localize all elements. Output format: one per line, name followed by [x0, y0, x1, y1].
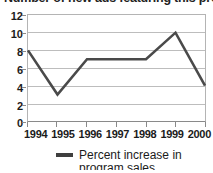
x-tick-label: 1999	[158, 128, 185, 142]
x-tick-mark	[205, 122, 206, 127]
x-tick-mark	[175, 122, 176, 127]
legend-color-swatch	[56, 153, 73, 157]
plot-area	[27, 14, 206, 122]
chart-legend: Percent increase in program sales	[0, 146, 213, 173]
x-tick-mark	[146, 122, 147, 127]
chart-title-text: Number of new ads featuring this product	[4, 0, 213, 5]
x-tick-label: 1994	[22, 128, 49, 142]
y-tick-label: 6	[1, 65, 23, 76]
data-series-line	[28, 15, 205, 121]
y-tick-label: 2	[1, 101, 23, 112]
legend-entry: Percent increase in program sales	[56, 148, 182, 170]
legend-label-line2-cropped: program sales	[79, 162, 182, 170]
y-tick-mark	[22, 15, 26, 16]
x-tick-mark	[56, 122, 57, 127]
x-tick-label: 1997	[104, 128, 131, 142]
x-tick-label: 1996	[77, 128, 104, 142]
y-tick-mark	[22, 51, 26, 52]
y-tick-label: 4	[1, 83, 23, 94]
y-tick-label: 8	[1, 47, 23, 58]
x-tick-mark	[86, 122, 87, 127]
y-tick-mark	[22, 105, 26, 106]
y-tick-mark	[22, 122, 26, 123]
x-axis-labels: 1994 1995 1996 1997 1998 1999 2000	[22, 128, 213, 142]
x-tick-label: 1995	[49, 128, 76, 142]
line-chart-figure: Number of new ads featuring this product…	[0, 0, 213, 173]
legend-label-line1: Percent increase in	[79, 148, 182, 162]
x-tick-label: 1998	[131, 128, 158, 142]
y-tick-mark	[22, 69, 26, 70]
x-tick-label: 2000	[186, 128, 213, 142]
legend-label-group: Percent increase in program sales	[79, 148, 182, 170]
y-tick-mark	[22, 87, 26, 88]
x-tick-mark	[116, 122, 117, 127]
y-tick-mark	[22, 33, 26, 34]
y-tick-label: 10	[1, 29, 23, 40]
legend-label-line2: program sales	[79, 162, 182, 170]
y-tick-label: 0	[1, 118, 23, 129]
chart-title-cropped: Number of new ads featuring this product	[0, 0, 213, 9]
y-tick-label: 12	[1, 11, 23, 22]
x-tick-mark	[27, 122, 28, 127]
